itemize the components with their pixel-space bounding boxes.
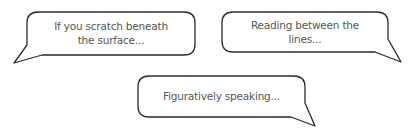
speech-bubble-3-line-1: Figuratively speaking... [138, 89, 305, 103]
speech-bubble-1-text: If you scratch beneath the surface... [27, 19, 195, 47]
speech-bubble-1-line-2: the surface... [27, 33, 195, 47]
speech-bubble-2-text: Reading between the lines... [222, 18, 388, 46]
speech-bubble-3-text: Figuratively speaking... [138, 89, 305, 103]
speech-bubble-1-line-1: If you scratch beneath [27, 19, 195, 33]
speech-bubble-2-line-2: lines... [222, 32, 388, 46]
speech-bubble-2-line-1: Reading between the [222, 18, 388, 32]
